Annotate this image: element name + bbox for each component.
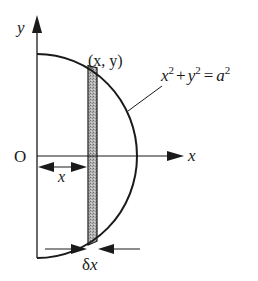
x-axis-label: x — [187, 146, 196, 165]
origin-label: O — [14, 147, 26, 166]
delta-x-arrows — [45, 244, 140, 254]
x-distance-label: x — [57, 168, 65, 185]
semicircle-diagram: y x O (x, y) x2+y2=a2 x δx — [0, 0, 258, 281]
point-label: (x, y) — [88, 52, 123, 70]
svg-text:x2+y2=a2: x2+y2=a2 — [160, 64, 230, 85]
y-axis — [32, 15, 42, 258]
circle-equation: x2+y2=a2 — [160, 64, 230, 85]
y-axis-label: y — [15, 18, 25, 37]
y-axis-arrow-icon — [32, 15, 42, 33]
leader-line — [128, 86, 162, 111]
x-axis — [37, 151, 184, 161]
shaded-strip — [88, 66, 97, 246]
x-axis-arrow-icon — [167, 151, 184, 161]
delta-x-label: δx — [82, 255, 98, 274]
